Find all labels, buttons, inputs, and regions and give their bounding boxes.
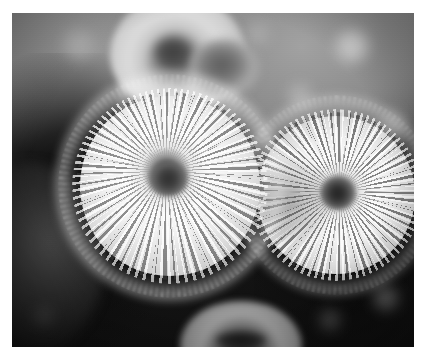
photograph <box>12 13 414 347</box>
vignette-overlay <box>12 13 414 347</box>
screenshot-canvas: Macro photograph of pincushion cacti <box>0 0 425 358</box>
